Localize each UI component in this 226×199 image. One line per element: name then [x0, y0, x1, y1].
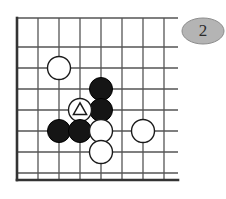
stone-disc[interactable] — [132, 120, 155, 143]
stone-disc[interactable] — [48, 57, 71, 80]
stone-disc[interactable] — [90, 78, 113, 101]
stone-white[interactable] — [132, 120, 155, 143]
go-board-figure: 2 — [0, 0, 226, 199]
stone-white-marked[interactable] — [69, 99, 92, 122]
badge-label: 2 — [199, 21, 208, 40]
stone-disc[interactable] — [69, 120, 92, 143]
stone-disc[interactable] — [90, 120, 113, 143]
stone-disc[interactable] — [90, 99, 113, 122]
stone-white[interactable] — [90, 120, 113, 143]
stone-disc[interactable] — [48, 120, 71, 143]
stone-white[interactable] — [48, 57, 71, 80]
stone-black[interactable] — [90, 78, 113, 101]
stone-black[interactable] — [90, 99, 113, 122]
move-number-badge: 2 — [182, 18, 224, 44]
go-board-canvas: 2 — [0, 0, 226, 199]
stone-black[interactable] — [69, 120, 92, 143]
stone-white[interactable] — [90, 141, 113, 164]
stone-black[interactable] — [48, 120, 71, 143]
stone-disc[interactable] — [90, 141, 113, 164]
